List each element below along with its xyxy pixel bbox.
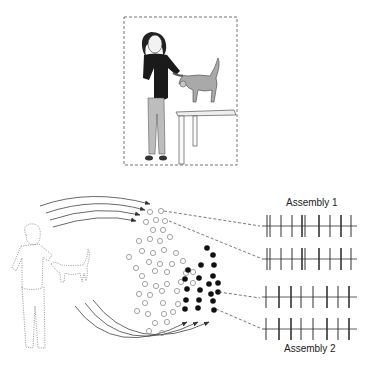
assembly-1-label: Assembly 1 — [286, 197, 338, 208]
spike-train-1 — [262, 215, 357, 237]
input-arrows-bottom — [75, 300, 209, 338]
spike-train-2 — [262, 248, 357, 270]
input-arrows-top — [40, 196, 150, 227]
dotted-scene-outline — [12, 224, 89, 348]
woman-figure — [142, 32, 183, 161]
scene-picture — [124, 17, 237, 165]
filled-neurons-assembly — [182, 245, 221, 313]
binding-diagram — [0, 0, 371, 373]
assembly-2-label: Assembly 2 — [284, 343, 336, 354]
spike-train-4 — [262, 318, 357, 340]
spike-train-3 — [262, 286, 357, 308]
table-figure — [176, 110, 236, 164]
cat-figure — [179, 58, 219, 102]
